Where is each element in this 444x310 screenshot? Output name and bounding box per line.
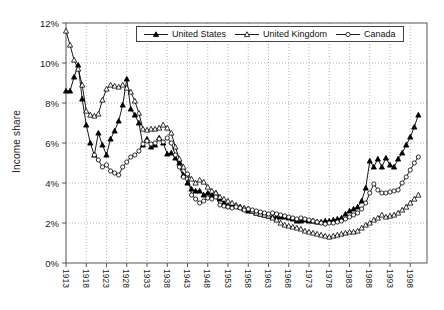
svg-text:1958: 1958 [243,269,253,288]
svg-text:1933: 1933 [142,269,152,288]
svg-text:1983: 1983 [344,269,354,288]
legend-label: United Kingdom [263,29,327,39]
svg-text:1953: 1953 [223,269,233,288]
svg-text:1928: 1928 [121,269,131,288]
svg-text:2%: 2% [45,218,59,229]
legend-item-united-states: United States [144,29,226,39]
open-circle-marker-icon [336,30,360,39]
svg-text:0%: 0% [45,258,59,269]
gridlines [66,23,427,263]
svg-text:1978: 1978 [324,269,334,288]
svg-text:1938: 1938 [162,269,172,288]
filled-triangle-marker-icon [144,30,168,39]
svg-text:1918: 1918 [81,269,91,288]
svg-text:1948: 1948 [202,269,212,288]
svg-text:1968: 1968 [283,269,293,288]
chart-legend: United States United Kingdom Canada [136,26,404,42]
svg-text:4%: 4% [45,178,59,189]
svg-text:6%: 6% [45,138,59,149]
svg-text:1963: 1963 [263,269,273,288]
svg-text:8%: 8% [45,98,59,109]
legend-item-canada: Canada [336,29,396,39]
legend-label: United States [172,29,226,39]
y-axis-title: Income share [11,90,22,194]
tick-labels: 0%2%4%6%8%10%12%191319181923192819331938… [40,18,415,289]
svg-text:1998: 1998 [405,269,415,288]
series-canada [92,136,420,226]
svg-text:1923: 1923 [101,269,111,288]
svg-text:1988: 1988 [364,269,374,288]
svg-text:1973: 1973 [304,269,314,288]
svg-text:10%: 10% [40,58,60,69]
svg-text:12%: 12% [40,18,60,29]
income-share-chart: 0%2%4%6%8%10%12%191319181923192819331938… [0,0,444,310]
svg-text:1993: 1993 [385,269,395,288]
open-triangle-marker-icon [235,30,259,39]
svg-text:1943: 1943 [182,269,192,288]
legend-item-united-kingdom: United Kingdom [235,29,327,39]
svg-text:1913: 1913 [61,269,71,288]
income-share-figure: 0%2%4%6%8%10%12%191319181923192819331938… [0,0,444,310]
legend-label: Canada [364,29,396,39]
